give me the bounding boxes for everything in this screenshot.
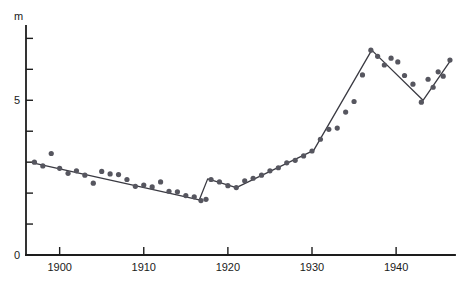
data-point [419, 100, 424, 105]
data-point [158, 179, 163, 184]
data-point [441, 74, 446, 79]
data-point [116, 172, 121, 177]
data-point [32, 160, 37, 165]
data-point [175, 189, 180, 194]
data-point [217, 179, 222, 184]
data-point [198, 198, 203, 203]
data-point [82, 173, 87, 178]
data-point [234, 185, 239, 190]
data-point [57, 166, 62, 171]
data-point [91, 181, 96, 186]
x-tick-label-1920: 1920 [216, 261, 240, 273]
data-point [293, 158, 298, 163]
data-point [395, 59, 400, 64]
data-point [335, 126, 340, 131]
data-point [150, 184, 155, 189]
data-point [49, 151, 54, 156]
data-point [375, 54, 380, 59]
data-point [431, 85, 436, 90]
data-point [343, 109, 348, 114]
data-point [208, 177, 213, 182]
data-point [203, 197, 208, 202]
data-point [318, 137, 323, 142]
x-tick-label-1930: 1930 [300, 261, 324, 273]
data-point [309, 148, 314, 153]
data-point [368, 48, 373, 53]
data-point [425, 77, 430, 82]
data-point [65, 171, 70, 176]
y-axis-tick-labels: 05 [14, 94, 20, 261]
x-tick-label-1910: 1910 [132, 261, 156, 273]
data-point [108, 171, 113, 176]
data-point [351, 99, 356, 104]
data-point [259, 173, 264, 178]
line-scatter-chart: 05 19001910192019301940 m [0, 0, 469, 283]
x-axis-ticks [60, 247, 396, 255]
chart-container: 05 19001910192019301940 m [0, 0, 469, 283]
data-point [447, 57, 452, 62]
y-tick-label-0: 0 [14, 249, 20, 261]
data-point [402, 73, 407, 78]
trend-line-path [33, 50, 451, 200]
data-point [267, 168, 272, 173]
data-point [99, 169, 104, 174]
data-point [301, 153, 306, 158]
data-point [410, 82, 415, 87]
data-point [225, 183, 230, 188]
y-tick-label-5: 5 [14, 94, 20, 106]
data-point [141, 182, 146, 187]
data-point [183, 193, 188, 198]
x-tick-label-1940: 1940 [384, 261, 408, 273]
data-point [251, 176, 256, 181]
data-point [242, 178, 247, 183]
data-point [284, 160, 289, 165]
y-axis-unit-label: m [14, 10, 23, 22]
data-point [382, 62, 387, 67]
x-tick-label-1900: 1900 [47, 261, 71, 273]
data-point [360, 72, 365, 77]
data-point [388, 56, 393, 61]
data-points-group [32, 48, 453, 204]
x-axis-tick-labels: 19001910192019301940 [47, 261, 408, 273]
data-point [276, 165, 281, 170]
data-point [192, 194, 197, 199]
data-point [326, 127, 331, 132]
data-point [40, 163, 45, 168]
data-point [133, 184, 138, 189]
data-point [166, 189, 171, 194]
y-axis-ticks [26, 38, 33, 255]
data-point [436, 69, 441, 74]
data-point [74, 168, 79, 173]
data-point [124, 177, 129, 182]
